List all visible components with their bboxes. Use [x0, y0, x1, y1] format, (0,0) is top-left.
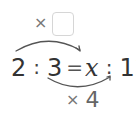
variable-x: x [85, 54, 99, 82]
multiplier-factor: 4 [85, 87, 99, 112]
colon-1: : [33, 53, 40, 81]
colon-2: : [106, 53, 113, 81]
term-3: 3 [47, 54, 62, 82]
bottom-multiplier: ×4 [66, 88, 99, 110]
term-2: 2 [11, 54, 26, 82]
equals-sign: = [66, 53, 83, 81]
bottom-multiply-symbol: × [66, 90, 79, 109]
top-arc-arrow [16, 41, 80, 51]
term-12: 12 [119, 54, 136, 82]
answer-input-box[interactable] [52, 12, 74, 36]
proportion-equation: 2:3=x:12 [11, 54, 136, 82]
top-multiply-symbol: × [34, 13, 47, 33]
